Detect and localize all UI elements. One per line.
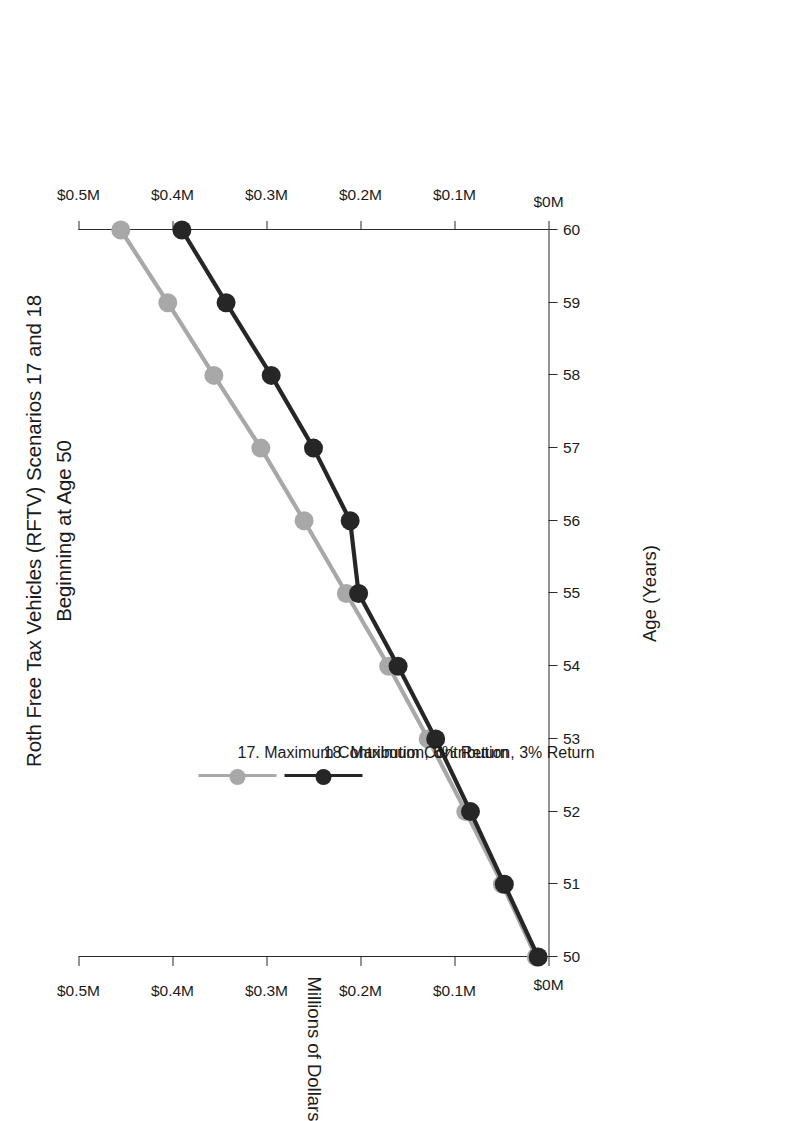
- y-tick-label-left: $0.4M: [150, 983, 193, 1001]
- x-tick: [548, 374, 557, 375]
- x-tick-label: 58: [562, 366, 579, 384]
- y-tick-left: [454, 957, 455, 966]
- plot-area: $0M$0.1M$0.2M$0.3M$0.4M$0.5M $0M$0.1M$0.…: [78, 230, 548, 957]
- y-tick-label-left: $0.5M: [56, 983, 99, 1001]
- legend-marker-icon: [284, 773, 362, 779]
- x-tick-label: 52: [562, 803, 579, 821]
- data-point: [204, 366, 223, 385]
- x-tick: [548, 738, 557, 739]
- data-point: [158, 293, 177, 312]
- y-tick-label-right: $0.4M: [150, 186, 193, 204]
- x-tick-label: 55: [562, 585, 579, 603]
- x-tick: [548, 447, 557, 448]
- series-2: [172, 221, 547, 967]
- data-point: [261, 366, 280, 385]
- x-tick: [548, 883, 557, 884]
- y-tick-right: [360, 221, 361, 230]
- x-tick-label: 50: [562, 948, 579, 966]
- y-tick-label-left: $0.2M: [338, 983, 381, 1001]
- x-tick-label: 60: [562, 221, 579, 239]
- y-tick-label-right: $0.3M: [244, 186, 287, 204]
- x-tick: [548, 956, 557, 957]
- chart-title-line-1: Roth Free Tax Vehicles (RFTV) Scenarios …: [18, 0, 48, 1062]
- x-tick: [548, 229, 557, 230]
- y-tick-label-right: $0.2M: [338, 186, 381, 204]
- legend-marker-icon: [198, 773, 276, 779]
- data-point: [216, 293, 235, 312]
- x-tick: [548, 811, 557, 812]
- data-point: [251, 439, 270, 458]
- chart-title-line-2: Beginning at Age 50: [48, 0, 78, 1062]
- y-tick-right: [78, 221, 79, 230]
- data-series-layer: [78, 230, 548, 957]
- y-tick-label-left: $0.3M: [244, 983, 287, 1001]
- legend-dot-icon: [229, 770, 245, 786]
- data-point: [294, 511, 313, 530]
- series-1: [111, 221, 545, 967]
- y-tick-left: [548, 957, 549, 966]
- data-point: [172, 221, 191, 240]
- x-tick-label: 59: [562, 294, 579, 312]
- x-tick: [548, 520, 557, 521]
- x-tick-label: 57: [562, 439, 579, 457]
- data-point: [340, 511, 359, 530]
- y-tick-label-right: $0.1M: [432, 186, 475, 204]
- x-tick: [548, 302, 557, 303]
- y-tick-left: [78, 957, 79, 966]
- data-point: [111, 221, 130, 240]
- legend-label: 18. Maximum Contribution, 3% Return: [323, 744, 594, 762]
- y-tick-left: [360, 957, 361, 966]
- y-axis-title: Millions of Dollars: [302, 977, 324, 1121]
- data-point: [304, 439, 323, 458]
- y-tick-label-left: $0M: [533, 976, 563, 994]
- y-tick-label-right: $0M: [533, 193, 563, 211]
- y-tick-right: [266, 221, 267, 230]
- x-tick-label: 54: [562, 657, 579, 675]
- y-tick-right: [454, 221, 455, 230]
- legend-dot-icon: [315, 770, 331, 786]
- x-tick-label: 51: [562, 875, 579, 893]
- y-tick-left: [172, 957, 173, 966]
- y-tick-label-right: $0.5M: [56, 186, 99, 204]
- x-axis-title: Age (Years): [638, 230, 660, 957]
- x-tick-label: 56: [562, 512, 579, 530]
- y-tick-left: [266, 957, 267, 966]
- chart-title: Roth Free Tax Vehicles (RFTV) Scenarios …: [18, 0, 77, 1062]
- x-tick: [548, 593, 557, 594]
- series-line: [120, 230, 535, 957]
- x-tick: [548, 665, 557, 666]
- y-tick-label-left: $0.1M: [432, 983, 475, 1001]
